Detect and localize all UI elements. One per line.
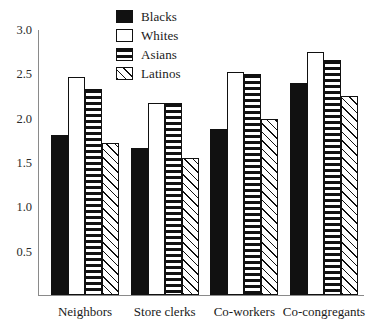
y-tick-label: 3.0 (16, 24, 32, 36)
legend-item-asians: Asians (116, 46, 181, 62)
x-axis-category-label: Neighbors (58, 305, 112, 318)
bar-latinos (182, 158, 199, 295)
legend-label-asians: Asians (141, 48, 177, 61)
bar-asians (85, 89, 102, 295)
legend-label-latinos: Latinos (141, 67, 181, 80)
x-axis-line (38, 295, 364, 296)
chart-legend: Blacks Whites Asians Latinos (116, 8, 181, 81)
legend-swatch-blacks-icon (116, 10, 133, 23)
legend-label-blacks: Blacks (141, 10, 177, 23)
bar-group: Co-workers (210, 30, 278, 295)
y-tick-label: 2.5 (16, 68, 32, 80)
legend-item-blacks: Blacks (116, 8, 181, 24)
y-tick-label: 1.5 (16, 157, 32, 169)
bar-chart-figure: Blacks Whites Asians Latinos 3.02.52.01.… (0, 0, 372, 336)
bar-whites (68, 77, 85, 295)
legend-swatch-latinos-icon (116, 67, 133, 80)
legend-swatch-whites-icon (116, 29, 133, 42)
y-tick-label: 1.0 (16, 201, 32, 213)
bar-blacks (210, 129, 227, 295)
bar-latinos (341, 96, 358, 296)
bar-group: Neighbors (51, 30, 119, 295)
y-tick-label: 2.0 (16, 113, 32, 125)
bar-whites (148, 103, 165, 295)
bar-whites (307, 52, 324, 295)
bar-whites (227, 72, 244, 295)
x-axis-category-label: Store clerks (134, 305, 196, 318)
legend-label-whites: Whites (141, 29, 178, 42)
legend-item-whites: Whites (116, 27, 181, 43)
bar-blacks (131, 148, 148, 295)
bar-latinos (261, 119, 278, 295)
bar-asians (165, 103, 182, 295)
bar-latinos (102, 143, 119, 295)
legend-swatch-asians-icon (116, 48, 133, 61)
x-axis-category-label: Co-congregants (283, 305, 365, 318)
y-axis-line (38, 30, 39, 296)
bar-asians (324, 60, 341, 295)
bar-blacks (290, 83, 307, 295)
x-axis-category-label: Co-workers (214, 305, 275, 318)
bar-group: Co-congregants (290, 30, 358, 295)
bar-asians (244, 74, 261, 295)
legend-item-latinos: Latinos (116, 65, 181, 81)
plot-area: 3.02.52.01.51.00.5 NeighborsStore clerks… (38, 30, 364, 296)
y-tick-label: 0.5 (16, 246, 32, 258)
bar-blacks (51, 135, 68, 295)
